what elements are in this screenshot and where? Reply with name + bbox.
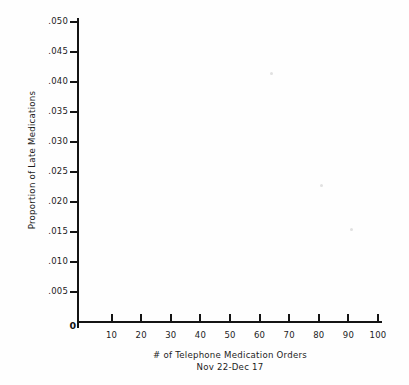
x-axis-tick <box>229 314 231 322</box>
y-axis-tick <box>70 51 77 53</box>
y-axis-tick-label: .010 <box>38 256 68 266</box>
x-axis-title-line2: Nov 22-Dec 17 <box>78 361 382 373</box>
y-axis-tick <box>70 171 77 173</box>
x-axis-tick <box>377 314 379 322</box>
x-axis-tick <box>140 314 142 322</box>
x-axis-tick-label: 60 <box>247 330 273 340</box>
y-axis-line <box>77 18 79 328</box>
x-axis-tick-label: 30 <box>158 330 184 340</box>
y-axis-tick-label: .045 <box>38 46 68 56</box>
x-axis-tick <box>288 314 290 322</box>
x-axis-tick-label: 100 <box>365 330 391 340</box>
y-axis-tick <box>70 81 77 83</box>
x-axis-tick <box>318 314 320 322</box>
y-axis-tick-label: .005 <box>38 286 68 296</box>
scatter-chart-figure: 0 Proportion of Late Medications # of Te… <box>0 0 409 385</box>
y-axis-tick-label: .015 <box>38 226 68 236</box>
x-axis-tick-label: 80 <box>306 330 332 340</box>
y-axis-tick <box>70 261 77 263</box>
x-axis-tick <box>170 314 172 322</box>
data-point <box>350 228 353 231</box>
y-axis-tick-label: .025 <box>38 166 68 176</box>
x-axis-tick <box>259 314 261 322</box>
y-axis-tick <box>70 231 77 233</box>
x-axis-tick <box>111 314 113 322</box>
y-axis-title: Proportion of Late Medications <box>27 65 37 255</box>
y-axis-tick <box>70 111 77 113</box>
x-axis-title: # of Telephone Medication Orders Nov 22-… <box>78 349 382 373</box>
origin-tick-label: 0 <box>64 320 76 331</box>
data-point <box>320 184 323 187</box>
x-axis-tick <box>347 314 349 322</box>
y-axis-tick-label: .030 <box>38 136 68 146</box>
x-axis-tick <box>199 314 201 322</box>
x-axis-tick-label: 20 <box>128 330 154 340</box>
y-axis-tick-label: .020 <box>38 196 68 206</box>
plot-area <box>78 18 382 322</box>
y-axis-tick-label: .050 <box>38 16 68 26</box>
y-axis-tick <box>70 291 77 293</box>
y-axis-tick <box>70 141 77 143</box>
y-axis-tick-label: .035 <box>38 106 68 116</box>
data-point <box>270 72 273 75</box>
x-axis-title-line1: # of Telephone Medication Orders <box>153 350 307 360</box>
y-axis-tick-label: .040 <box>38 76 68 86</box>
x-axis-tick-label: 90 <box>335 330 361 340</box>
x-axis-tick-label: 10 <box>99 330 125 340</box>
x-axis-tick-label: 40 <box>187 330 213 340</box>
x-axis-tick-label: 50 <box>217 330 243 340</box>
y-axis-tick <box>70 201 77 203</box>
y-axis-tick <box>70 21 77 23</box>
x-axis-tick-label: 70 <box>276 330 302 340</box>
